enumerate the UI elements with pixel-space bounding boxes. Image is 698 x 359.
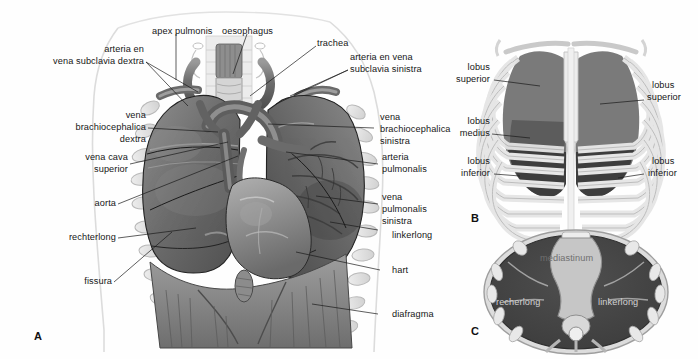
panel-letter-c: C bbox=[471, 325, 479, 337]
label-b-lobus-medius-line2: medius bbox=[432, 128, 490, 139]
label-vena-pulmonalis-sinistra-line3: sinistra bbox=[382, 216, 412, 227]
label-b-lobus-superior-right-line2: superior bbox=[647, 92, 681, 103]
label-vena-subclavia-dextra: vena subclavia dextra bbox=[0, 56, 144, 67]
label-fissura: fissura bbox=[0, 276, 112, 287]
label-arteria-en: arteria en bbox=[0, 44, 144, 55]
label-b-lobus-inferior-left-line1: lobus bbox=[432, 156, 490, 167]
label-aorta: aorta bbox=[0, 198, 116, 209]
label-vena-brachiocephalica-dextra-line2: brachiocephalica bbox=[0, 122, 146, 133]
panel-letter-a: A bbox=[34, 330, 42, 342]
label-arteria-pulmonalis-line1: arteria bbox=[382, 152, 409, 163]
label-b-lobus-superior-left-line2: superior bbox=[432, 74, 490, 85]
label-c-linkerlong: linkerlong bbox=[598, 297, 638, 308]
label-mediastinum: mediastinum bbox=[540, 253, 593, 264]
label-arteria-pulmonalis-line2: pulmonalis bbox=[382, 164, 427, 175]
label-subclavia-sinistra: subclavia sinistra bbox=[350, 64, 422, 75]
label-vena-cava-superior-line1: vena cava bbox=[0, 152, 128, 163]
label-b-lobus-medius-line1: lobus bbox=[432, 116, 490, 127]
label-vena-brachiocephalica-sinistra-line3: sinistra bbox=[380, 136, 410, 147]
label-c-recherlong: recherlong bbox=[496, 297, 540, 308]
label-linkerlong: linkerlong bbox=[392, 230, 432, 241]
label-vena-pulmonalis-sinistra-line2: pulmonalis bbox=[382, 204, 427, 215]
label-vena-brachiocephalica-dextra-line1: vena bbox=[0, 110, 146, 121]
anatomy-figure: apex pulmonis oesophagus trachea arteria… bbox=[0, 0, 698, 359]
label-vena-brachiocephalica-sinistra-line1: vena bbox=[380, 112, 400, 123]
panel-b-illustration bbox=[480, 40, 663, 244]
label-b-lobus-superior-left-line1: lobus bbox=[432, 62, 490, 73]
label-vena-pulmonalis-sinistra-line1: vena bbox=[382, 192, 402, 203]
label-b-lobus-inferior-right-line2: inferior bbox=[648, 168, 677, 179]
label-trachea: trachea bbox=[317, 38, 348, 49]
label-vena-brachiocephalica-dextra-line3: dextra bbox=[0, 134, 146, 145]
label-apex-pulmonis: apex pulmonis bbox=[152, 26, 213, 37]
label-diafragma: diafragma bbox=[392, 309, 434, 320]
panel-letter-b: B bbox=[471, 212, 479, 224]
label-arteria-en-vena: arteria en vena bbox=[350, 52, 413, 63]
label-rechterlong: rechterlong bbox=[0, 232, 116, 243]
label-hart: hart bbox=[392, 265, 408, 276]
label-b-lobus-superior-right-line1: lobus bbox=[652, 80, 674, 91]
label-b-lobus-inferior-left-line2: inferior bbox=[432, 168, 490, 179]
panel-c-illustration bbox=[484, 230, 668, 354]
label-b-lobus-inferior-right-line1: lobus bbox=[652, 156, 674, 167]
label-vena-cava-superior-line2: superior bbox=[0, 164, 128, 175]
label-oesophagus: oesophagus bbox=[222, 26, 273, 37]
